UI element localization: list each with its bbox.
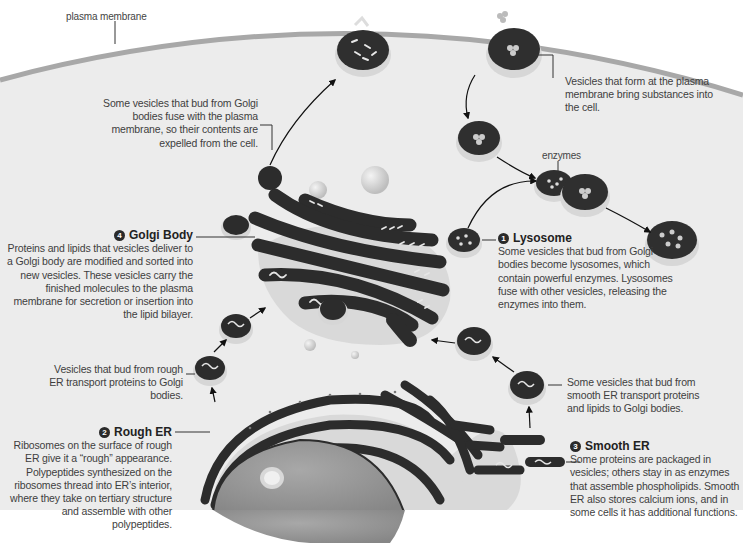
callout-golgi-body: 4Golgi Body Proteins and lipids that ves… — [0, 229, 193, 321]
lysosome-description: Some vesicles that bud from Golgi bodies… — [498, 245, 673, 310]
lysosome-title: Lysosome — [513, 231, 572, 245]
step-number-badge: 3 — [570, 441, 581, 452]
endomembrane-diagram: plasma membrane Some vesicles that bud f… — [0, 0, 743, 543]
vesicle-endocytosis — [486, 11, 542, 78]
rough-er-title: Rough ER — [114, 425, 172, 439]
smooth-er-description: Some proteins are packaged in vesicles; … — [570, 453, 739, 518]
label-enzymes: enzymes — [542, 149, 581, 162]
label-smooth-er-vesicles: Some vesicles that bud from smooth ER tr… — [567, 376, 702, 416]
callout-rough-er: 2Rough ER Ribosomes on the surface of ro… — [0, 426, 172, 532]
label-rough-er-vesicles: Vesicles that bud from rough ER transpor… — [40, 363, 183, 403]
step-number-badge: 1 — [498, 233, 509, 244]
step-number-badge: 4 — [114, 230, 125, 241]
callout-smooth-er: 3Smooth ER Some proteins are packaged in… — [570, 440, 740, 519]
step-number-badge: 2 — [99, 427, 110, 438]
golgi-description: Proteins and lipids that vesicles delive… — [7, 242, 193, 320]
vesicle-exocytosis — [335, 18, 391, 77]
smooth-er-title: Smooth ER — [585, 439, 650, 453]
vesicle-internalized — [456, 121, 502, 162]
label-endocytosis: Vesicles that form at the plasma membran… — [565, 75, 725, 115]
label-exocytosis: Some vesicles that bud from Golgi bodies… — [82, 97, 258, 150]
label-plasma-membrane: plasma membrane — [66, 10, 147, 23]
rough-er-description: Ribosomes on the surface of rough ER giv… — [10, 439, 172, 530]
callout-lysosome: 1Lysosome Some vesicles that bud from Go… — [498, 232, 673, 311]
golgi-title: Golgi Body — [129, 228, 193, 242]
